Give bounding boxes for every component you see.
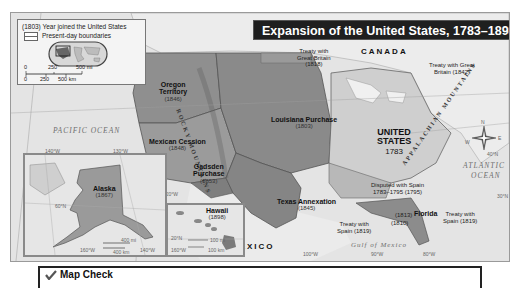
alaska-lon-140w: 140°W [140,247,155,253]
hawaii-scale-mi: 100 mi [210,237,225,243]
scale-mi-0: 0 [24,64,27,70]
alaska-shape [25,155,165,255]
annotation-treaty-gb-1818: Treaty with Great Britain (1818) [297,48,331,68]
lon-80w: 80°W [423,251,435,257]
lat-30n: 30°N [497,193,508,199]
annotation-disputed-spain: Disputed with Spain 1783–1795 (1795) [371,182,424,195]
lon-100w: 100°W [303,251,318,257]
label-canada: CANADA [361,48,408,56]
hawaii-inset: Hawaii (1898) 20°N 160°W 100 mi 100 km [166,203,245,257]
annotation-year-1813: (1813) [395,212,412,219]
legend-boundaries-label: Present-day boundaries [42,32,111,39]
lat-20n: 20°N [171,235,182,241]
label-hawaii: Hawaii (1898) [206,207,228,221]
label-mexican-cession: Mexican Cession (1848) [149,138,206,152]
annotation-treaty-gb-1842: Treaty with Great Britain (1842) [429,62,475,75]
hawaii-scale-km: 100 km [208,247,224,253]
label-louisiana-purchase: Louisiana Purchase (1803) [271,116,337,130]
label-florida: Florida [414,210,437,217]
annotation-treaty-spain-1819-east: Treaty with Spain (1819) [443,211,477,224]
scale-mi-250: 250 [48,64,57,70]
alaska-lon-160w: 160°W [80,247,95,253]
boundary-swatch-icon [24,32,38,41]
compass-n: N [481,119,485,125]
compass-rose-icon [471,125,497,151]
scale-km-500: 500 km [58,76,76,82]
compass-w: W [465,139,470,145]
label-gulf-of-mexico: Gulf of Mexico [351,241,407,249]
checkmark-icon [45,270,57,280]
lon-90w: 90°W [371,251,383,257]
label-texas-annexation: Texas Annexation (1845) [277,198,336,212]
legend: (1803) Year joined the United States Pre… [17,19,146,85]
label-gadsden-purchase: Gadsden Purchase (1853) [193,163,225,184]
annotation-treaty-spain-1819-west: Treaty with Spain (1819) [337,221,371,234]
scale-km-0: 0 [24,76,27,82]
alaska-scale-km: 400 km [113,249,129,255]
alaska-inset: Alaska (1867) 60°N 160°W 140°W 400 mi 40… [23,153,167,257]
hawaii-lon-160w: 160°W [171,247,186,253]
label-alaska: Alaska (1867) [93,185,116,199]
alaska-scale-mi: 400 mi [121,237,136,243]
label-atlantic-ocean-2: OCEAN [471,171,501,180]
compass-e: E [498,135,501,141]
lat-60n: 60°N [55,203,66,209]
scale-km-250: 250 [40,76,49,82]
label-united-states-1783: UNITED STATES 1783 [377,128,411,156]
label-atlantic-ocean-1: ATLANTIC [463,161,505,170]
map: Expansion of the United States, 1783–189… [10,12,510,262]
map-title: Expansion of the United States, 1783–189… [253,20,510,40]
label-pacific-ocean: PACIFIC OCEAN [53,126,120,135]
map-check-title: Map Check [60,269,113,280]
map-check-box: Map Check [38,266,482,288]
legend-year-note: (1803) Year joined the United States [22,23,126,30]
annotation-year-1810: (1810) [391,220,408,227]
lat-40n: 40°N [487,151,498,157]
scale-mi-500: 500 mi [76,64,93,70]
label-oregon-territory: Oregon Territory (1846) [159,81,187,102]
